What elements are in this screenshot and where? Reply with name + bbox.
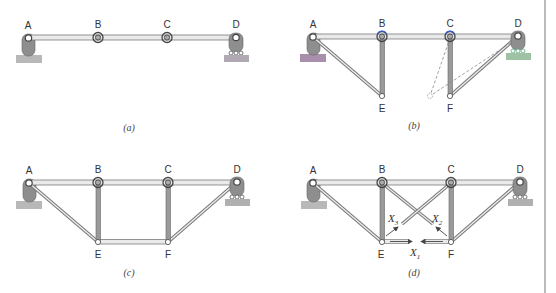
member-cf xyxy=(166,182,171,242)
joint-f xyxy=(447,93,452,98)
joint-e xyxy=(379,239,384,244)
ground-d xyxy=(506,53,531,60)
node-label-a: A xyxy=(310,165,317,176)
node-label-e: E xyxy=(379,103,386,114)
pin-a xyxy=(26,180,32,186)
dashed-displaced-member xyxy=(430,38,518,96)
structural-diagram: A B C D (a) xyxy=(0,0,556,293)
panel-b: A B C D E F (b) xyxy=(300,18,531,132)
member-be xyxy=(96,182,101,242)
node-label-d: D xyxy=(516,164,523,175)
joint-f xyxy=(448,239,453,244)
node-label-a: A xyxy=(26,165,33,176)
member-be xyxy=(380,182,385,242)
pin-a xyxy=(310,180,316,186)
node-label-f: F xyxy=(447,103,453,114)
joint-e xyxy=(95,239,100,244)
node-label-c: C xyxy=(164,164,171,175)
beam-abcd xyxy=(29,180,237,185)
redundant-x3-label: X3 xyxy=(387,212,399,227)
node-label-b: B xyxy=(95,164,102,175)
arrow-x2 xyxy=(436,227,447,236)
node-label-a: A xyxy=(25,20,32,31)
panel-c: A B C D E F (c) xyxy=(16,164,250,279)
node-label-b: B xyxy=(379,164,386,175)
pin-a xyxy=(25,35,31,41)
pin-d xyxy=(517,179,523,185)
redundant-x1-label: X1 xyxy=(409,246,420,261)
beam-abcd xyxy=(28,35,236,40)
member-be xyxy=(380,36,385,96)
node-label-d: D xyxy=(233,164,240,175)
node-label-c: C xyxy=(163,19,170,30)
beam-abcd xyxy=(313,34,518,39)
member-cf xyxy=(448,36,453,96)
ground-d xyxy=(508,199,533,206)
caption-c: (c) xyxy=(123,267,135,279)
panel-d: X3 X2 X1 A B C D E F (d) xyxy=(301,164,533,279)
caption-a: (a) xyxy=(123,122,135,134)
pin-a xyxy=(310,34,316,40)
node-label-c: C xyxy=(446,18,453,29)
pin-d xyxy=(233,34,239,40)
node-label-f: F xyxy=(165,249,171,260)
node-label-b: B xyxy=(379,18,386,29)
node-label-b: B xyxy=(95,19,102,30)
node-label-d: D xyxy=(232,19,239,30)
member-cf xyxy=(449,182,454,242)
node-label-e: E xyxy=(95,249,102,260)
redundant-x2-label: X2 xyxy=(431,212,443,227)
caption-b: (b) xyxy=(408,120,420,132)
panel-a: A B C D (a) xyxy=(16,19,249,134)
node-label-f: F xyxy=(448,249,454,260)
arrow-x3 xyxy=(386,227,398,236)
node-label-a: A xyxy=(310,19,317,30)
beam-abcd xyxy=(313,180,520,185)
joint-f xyxy=(165,239,170,244)
ground-d xyxy=(225,199,250,206)
member-ef xyxy=(98,240,168,245)
pin-d xyxy=(234,179,240,185)
node-label-c: C xyxy=(447,164,454,175)
joint-e xyxy=(379,93,384,98)
pin-d xyxy=(515,33,521,39)
caption-d: (d) xyxy=(408,267,420,279)
ground-d xyxy=(224,55,249,62)
node-label-d: D xyxy=(514,18,521,29)
node-label-e: E xyxy=(378,249,385,260)
